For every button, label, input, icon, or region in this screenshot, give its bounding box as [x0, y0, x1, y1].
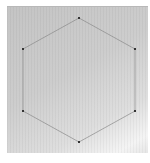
vertex-upper-right	[134, 48, 136, 50]
vertex-bottom	[78, 141, 80, 143]
hexagon-vertices	[22, 17, 136, 143]
hexagon-outline	[23, 18, 135, 142]
vertex-top	[78, 17, 80, 19]
hexagon-diagram	[0, 0, 150, 163]
vertex-upper-left	[22, 48, 24, 50]
vertex-lower-left	[22, 110, 24, 112]
vertex-lower-right	[134, 110, 136, 112]
